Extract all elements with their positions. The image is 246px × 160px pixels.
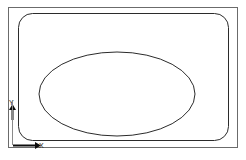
x-axis-label: X (39, 142, 44, 149)
outer-frame-rectangle (9, 8, 238, 148)
drawing-canvas: X Y (0, 0, 246, 160)
technical-drawing-svg: X Y (0, 0, 246, 160)
y-axis-label: Y (9, 99, 14, 106)
inscribed-ellipse (39, 52, 195, 136)
axis-indicator-group: X Y (9, 99, 44, 149)
inner-rounded-rectangle (19, 14, 229, 141)
